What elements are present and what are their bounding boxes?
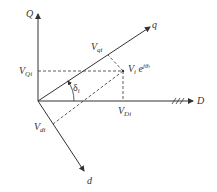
delta-sub: i — [78, 87, 80, 95]
phasor-exp-sub: i — [148, 64, 149, 69]
phasor-point — [122, 70, 124, 72]
d-axis-rotated — [38, 101, 84, 171]
vQi-sub: Qi — [25, 70, 32, 78]
label-vqi: Vqi — [91, 42, 103, 54]
vdi-sub: di — [40, 126, 45, 134]
phasor-exponent: jθi — [143, 62, 150, 70]
label-phasor: Vi ejθi — [128, 63, 150, 76]
ground-hatch-icon — [172, 98, 184, 104]
diagram-canvas — [0, 0, 217, 192]
label-vdi: Vdi — [34, 122, 46, 134]
label-delta: δi — [73, 83, 80, 95]
vDi-sub: Di — [124, 110, 131, 118]
projection-vdi-rotated — [53, 71, 123, 124]
label-vQi: VQi — [19, 66, 32, 78]
vqi-sub: qi — [97, 46, 102, 54]
phasor-sub: i — [134, 68, 136, 76]
projection-vqi — [108, 55, 123, 71]
label-q: q — [152, 20, 157, 30]
label-Q: Q — [26, 9, 33, 19]
label-vDi: VDi — [118, 106, 131, 118]
label-d: d — [87, 176, 92, 186]
label-D: D — [197, 96, 204, 106]
